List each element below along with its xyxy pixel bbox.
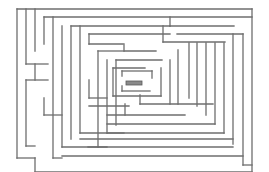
maze-walls [0,0,269,172]
maze-goal-marker [126,81,142,85]
maze-puzzle [0,0,269,172]
